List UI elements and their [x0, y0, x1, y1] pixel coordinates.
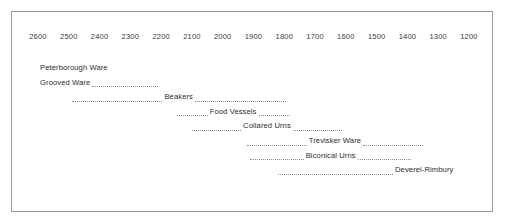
range-dotted-lead: [250, 147, 303, 160]
range-label: Peterborough Ware: [38, 62, 110, 74]
axis-tick-label: 1700: [306, 30, 324, 44]
range-dotted-trail: [363, 133, 422, 146]
range-label: Grooved Ware: [38, 77, 92, 89]
axis-tick-label: 2500: [60, 30, 78, 44]
timeline-row: Trevisker Ware: [12, 135, 492, 147]
axis-tick-label: 2100: [183, 30, 201, 44]
axis-tick-label: 2200: [152, 30, 170, 44]
range-dotted-lead: [177, 103, 208, 116]
range-bar[interactable]: Collared Urns: [192, 120, 342, 132]
range-label: Biconical Urns: [304, 150, 358, 162]
range-bar[interactable]: Beakers: [72, 91, 286, 103]
range-bar[interactable]: Peterborough Ware: [38, 62, 110, 74]
range-label: Beakers: [162, 91, 195, 103]
axis-tick-label: 1200: [460, 30, 478, 44]
axis-tick-label: 1400: [399, 30, 417, 44]
range-label: Deverel-Rimbury: [393, 164, 455, 176]
axis-tick-label: 1800: [276, 30, 294, 44]
axis-tick-label: 1300: [429, 30, 447, 44]
timeline-row: Grooved Ware: [12, 77, 492, 89]
range-dotted-trail: [195, 89, 286, 102]
pottery-chronology-chart: 2600250024002300220021002000190018001700…: [11, 11, 493, 212]
range-label: Trevisker Ware: [307, 135, 363, 147]
range-label: Collared Urns: [241, 120, 293, 132]
range-dotted-trail: [358, 147, 411, 160]
range-dotted-lead: [278, 162, 393, 175]
timeline-row: Food Vessels: [12, 106, 492, 118]
range-dotted-trail: [293, 118, 342, 131]
range-dotted-lead: [247, 133, 306, 146]
range-dotted-lead: [72, 89, 163, 102]
timeline-row: Peterborough Ware: [12, 62, 492, 74]
axis-tick-label: 2400: [91, 30, 109, 44]
axis-tick-label: 1900: [245, 30, 263, 44]
axis-tick-label: 1600: [337, 30, 355, 44]
range-dotted-trail: [92, 74, 157, 87]
range-bar[interactable]: Trevisker Ware: [247, 135, 422, 147]
axis-tick-label: 1500: [368, 30, 386, 44]
axis-tick-label: 2300: [122, 30, 140, 44]
axis-tick-label: 2600: [29, 30, 47, 44]
timeline-row: Deverel-Rimbury: [12, 164, 492, 176]
range-dotted-trail: [259, 103, 290, 116]
range-label: Food Vessels: [208, 106, 259, 118]
range-bar[interactable]: Deverel-Rimbury: [278, 164, 455, 176]
timeline-row: Collared Urns: [12, 120, 492, 132]
timeline-row: Beakers: [12, 91, 492, 103]
range-bar[interactable]: Biconical Urns: [250, 150, 411, 162]
date-axis: 2600250024002300220021002000190018001700…: [12, 30, 492, 44]
range-dotted-lead: [192, 118, 241, 131]
axis-tick-label: 2000: [214, 30, 232, 44]
timeline-row: Biconical Urns: [12, 150, 492, 162]
range-bar[interactable]: Food Vessels: [177, 106, 290, 118]
range-bar[interactable]: Grooved Ware: [38, 77, 158, 89]
